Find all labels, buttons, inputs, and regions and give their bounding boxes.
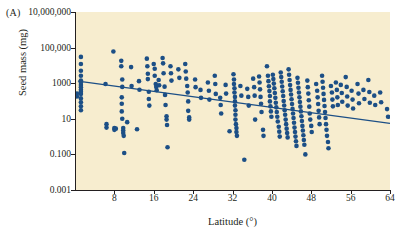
x-tick-label: 32 bbox=[228, 193, 238, 203]
x-tick-label: 24 bbox=[188, 193, 198, 203]
x-tick-label: 48 bbox=[307, 193, 317, 203]
x-tick-label: 64 bbox=[385, 193, 395, 203]
x-tick-label: 40 bbox=[267, 193, 277, 203]
x-tick-label: 56 bbox=[346, 193, 356, 203]
figure-panel-a: (A) 0.0010.100101000100,00010,000,000 81… bbox=[0, 0, 408, 243]
y-axis-title: Seed mass (mg) bbox=[17, 0, 28, 133]
x-axis-title: Latitude (°) bbox=[75, 216, 390, 227]
x-axis-tick-labels: 816243240485664 bbox=[0, 0, 408, 243]
x-tick-label: 16 bbox=[149, 193, 159, 203]
x-tick-label: 8 bbox=[112, 193, 117, 203]
